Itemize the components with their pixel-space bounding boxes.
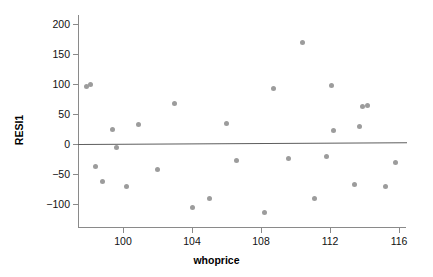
y-tick-mark bbox=[73, 174, 78, 175]
data-point bbox=[190, 205, 195, 210]
data-point bbox=[172, 101, 177, 106]
data-point bbox=[136, 122, 141, 127]
data-point bbox=[286, 156, 291, 161]
data-point bbox=[93, 164, 98, 169]
y-tick-label-wrap: −50 bbox=[26, 169, 70, 180]
data-point bbox=[100, 179, 105, 184]
data-point bbox=[331, 128, 336, 133]
x-tick-mark bbox=[330, 228, 331, 233]
y-tick-mark bbox=[73, 24, 78, 25]
x-tick-label: 116 bbox=[379, 236, 419, 247]
data-point bbox=[114, 145, 119, 150]
x-axis-title: whoprice bbox=[0, 254, 433, 266]
y-tick-mark bbox=[73, 204, 78, 205]
data-point bbox=[110, 127, 115, 132]
y-tick-label-wrap: −100 bbox=[26, 199, 70, 210]
x-tick-mark bbox=[399, 228, 400, 233]
y-tick-label: 100 bbox=[30, 79, 70, 90]
x-tick-label: 104 bbox=[172, 236, 212, 247]
y-axis-title: RESI1 bbox=[14, 95, 25, 165]
y-tick-label: 0 bbox=[30, 139, 70, 150]
y-tick-label-wrap: 100 bbox=[26, 79, 70, 90]
data-point bbox=[352, 182, 357, 187]
data-point bbox=[393, 160, 398, 165]
y-tick-label: 50 bbox=[30, 109, 70, 120]
y-tick-label-wrap: 200 bbox=[26, 19, 70, 30]
y-tick-label-wrap: 50 bbox=[26, 109, 70, 120]
data-point bbox=[88, 82, 93, 87]
y-tick-label: −100 bbox=[30, 199, 70, 210]
data-point bbox=[124, 184, 129, 189]
x-tick-label: 108 bbox=[241, 236, 281, 247]
data-point bbox=[271, 86, 276, 91]
data-point bbox=[262, 210, 267, 215]
data-point bbox=[155, 167, 160, 172]
data-point bbox=[234, 158, 239, 163]
y-tick-label: 200 bbox=[30, 19, 70, 30]
data-point bbox=[312, 196, 317, 201]
x-tick-mark bbox=[192, 228, 193, 233]
y-axis-line bbox=[78, 15, 79, 227]
y-tick-label: −50 bbox=[30, 169, 70, 180]
y-tick-mark bbox=[73, 114, 78, 115]
y-tick-mark bbox=[73, 54, 78, 55]
data-point bbox=[365, 103, 370, 108]
data-point bbox=[207, 196, 212, 201]
y-tick-label-wrap: 150 bbox=[26, 49, 70, 60]
data-point bbox=[324, 154, 329, 159]
data-point bbox=[224, 121, 229, 126]
data-point bbox=[300, 40, 305, 45]
scatter-plot-chart: 200150100500−50−100 100104108112116 RESI… bbox=[0, 0, 433, 277]
data-point bbox=[357, 124, 362, 129]
x-tick-mark bbox=[123, 228, 124, 233]
data-point bbox=[329, 83, 334, 88]
y-tick-label: 150 bbox=[30, 49, 70, 60]
x-tick-label: 112 bbox=[310, 236, 350, 247]
x-tick-mark bbox=[261, 228, 262, 233]
x-axis-line bbox=[78, 227, 406, 228]
y-tick-label-wrap: 0 bbox=[26, 139, 70, 150]
zero-reference-line bbox=[78, 142, 407, 145]
y-tick-mark bbox=[73, 84, 78, 85]
data-point bbox=[383, 184, 388, 189]
x-tick-label: 100 bbox=[103, 236, 143, 247]
